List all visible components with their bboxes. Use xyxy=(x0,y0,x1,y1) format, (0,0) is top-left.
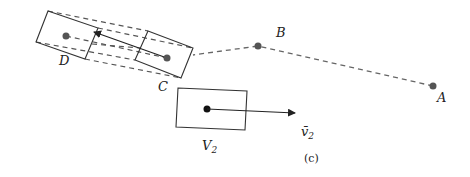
figure-caption: (c) xyxy=(304,152,319,165)
point-d xyxy=(63,33,70,40)
trajectory-diagram: A B C D V2 v̄2 (c) xyxy=(0,0,470,177)
label-d: D xyxy=(58,53,70,68)
label-b: B xyxy=(275,25,286,40)
label-volume-v2: V2 xyxy=(202,138,217,155)
velocity-arrow-v2 xyxy=(207,109,295,113)
label-velocity-v2: v̄2 xyxy=(301,124,314,141)
volume-subscript: 2 xyxy=(210,145,217,155)
label-a: A xyxy=(436,90,446,105)
velocity-subscript: 2 xyxy=(307,131,314,141)
point-a xyxy=(430,83,437,90)
point-b xyxy=(255,43,262,50)
label-c: C xyxy=(158,79,168,94)
point-c xyxy=(164,55,171,62)
trajectory-path xyxy=(193,46,433,86)
